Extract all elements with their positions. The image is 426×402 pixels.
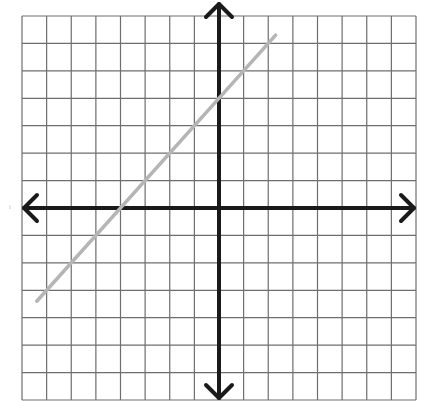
line-series xyxy=(37,35,276,301)
plotted-line xyxy=(37,35,276,301)
margin-mark: ı xyxy=(9,203,11,211)
coordinate-plane xyxy=(0,0,426,402)
axes xyxy=(24,4,414,398)
